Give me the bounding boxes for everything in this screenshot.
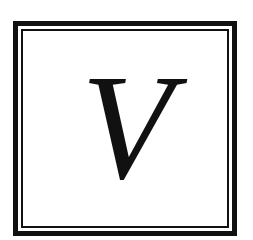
outer-frame: V: [13, 21, 237, 236]
inner-frame: V: [21, 29, 229, 228]
emblem-letter: V: [23, 67, 227, 187]
